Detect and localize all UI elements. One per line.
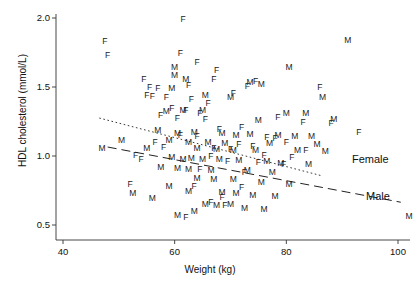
data-point-f-0: F [102, 37, 107, 46]
data-point-m-35: M [143, 143, 150, 152]
data-point-m-64: M [185, 187, 192, 196]
data-point-f-13: F [317, 83, 322, 92]
data-point-m-11: M [163, 107, 170, 116]
data-point-m-46: M [216, 155, 223, 164]
data-point-m-68: M [272, 192, 279, 201]
data-point-m-71: M [213, 201, 220, 210]
data-point-f-60: F [183, 212, 188, 221]
data-point-m-1: M [171, 71, 178, 80]
x-tick-label-0: 40 [43, 246, 83, 257]
series-label-male: Male [366, 190, 390, 202]
data-point-m-60: M [230, 175, 237, 184]
data-point-f-7: F [194, 58, 199, 67]
data-point-f-8: F [214, 66, 219, 75]
data-point-f-17: F [164, 92, 169, 101]
data-point-m-20: M [191, 128, 198, 137]
x-tick-label-2: 80 [266, 246, 306, 257]
data-point-f-55: F [192, 182, 197, 191]
data-point-m-38: M [230, 146, 237, 155]
data-point-m-21: M [219, 129, 226, 138]
data-point-f-38: F [236, 140, 241, 149]
data-point-f-49: F [225, 157, 230, 166]
data-point-m-33: M [313, 139, 320, 148]
data-point-m-72: M [227, 199, 234, 208]
data-point-m-77: M [174, 210, 181, 219]
data-point-m-65: M [219, 188, 226, 197]
data-point-m-40: M [294, 146, 301, 155]
data-point-f-50: F [256, 158, 261, 167]
data-point-m-8: M [202, 91, 209, 100]
data-point-m-37: M [213, 145, 220, 154]
data-point-f-29: F [239, 123, 244, 132]
data-point-m-6: M [286, 63, 293, 72]
data-point-m-74: M [260, 205, 267, 214]
data-point-m-52: M [174, 163, 181, 172]
data-point-m-66: M [233, 188, 240, 197]
data-point-m-14: M [283, 109, 290, 118]
data-point-m-9: M [227, 92, 234, 101]
data-point-m-70: M [202, 199, 209, 208]
data-point-f-24: F [175, 114, 180, 123]
data-point-m-32: M [266, 139, 273, 148]
data-point-f-56: F [239, 183, 244, 192]
data-point-m-29: M [185, 137, 192, 146]
y-axis-title: HDL cholesterol (mmol/L) [17, 51, 28, 171]
x-tick-label-3: 100 [378, 246, 418, 257]
data-point-m-2: M [168, 84, 175, 93]
data-point-f-37: F [153, 138, 158, 147]
data-point-m-27: M [118, 136, 125, 145]
data-point-m-36: M [193, 144, 200, 153]
series-label-female: Female [352, 153, 389, 165]
data-point-f-44: F [133, 150, 138, 159]
data-point-m-59: M [210, 175, 217, 184]
data-point-m-49: M [277, 159, 284, 168]
data-point-m-7: M [344, 36, 351, 45]
data-point-f-4: F [155, 83, 160, 92]
data-point-m-45: M [199, 155, 206, 164]
data-point-m-34: M [99, 143, 106, 152]
data-point-f-36: F [284, 138, 289, 147]
data-point-m-42: M [168, 153, 175, 162]
data-point-m-51: M [157, 163, 164, 172]
data-point-m-55: M [244, 166, 251, 175]
data-point-m-25: M [291, 132, 298, 141]
data-point-m-19: M [174, 128, 181, 137]
data-point-m-54: M [207, 166, 214, 175]
data-point-m-12: M [179, 106, 186, 115]
data-point-m-4: M [246, 78, 253, 87]
data-point-m-75: M [406, 212, 413, 221]
data-point-m-17: M [330, 115, 337, 124]
data-point-m-73: M [241, 204, 248, 213]
data-point-f-1: F [105, 50, 110, 59]
data-point-m-63: M [166, 182, 173, 191]
x-tick-label-1: 60 [155, 246, 195, 257]
data-point-m-62: M [286, 179, 293, 188]
data-point-m-57: M [129, 188, 136, 197]
data-point-m-31: M [221, 139, 228, 148]
data-point-f-31: F [356, 128, 361, 137]
data-point-m-67: M [249, 190, 256, 199]
data-point-m-24: M [274, 130, 281, 139]
data-point-m-61: M [258, 177, 265, 186]
data-point-f-27: F [300, 118, 305, 127]
data-point-m-30: M [205, 138, 212, 147]
data-point-m-10: M [319, 92, 326, 101]
data-point-m-76: M [191, 207, 198, 216]
data-point-m-48: M [263, 157, 270, 166]
data-point-m-22: M [233, 130, 240, 139]
data-point-m-3: M [182, 74, 189, 83]
data-point-m-5: M [258, 80, 265, 89]
data-point-f-5: F [180, 15, 185, 24]
y-tick-label-3: 2.0 [20, 12, 50, 23]
data-point-m-44: M [188, 154, 195, 163]
data-point-f-2: F [141, 74, 146, 83]
data-point-f-20: F [169, 104, 174, 113]
data-point-m-53: M [185, 165, 192, 174]
data-point-m-69: M [149, 194, 156, 203]
data-point-f-6: F [178, 49, 183, 58]
y-tick-label-0: 0.5 [20, 219, 50, 230]
data-point-m-47: M [235, 156, 242, 165]
data-point-f-9: F [211, 75, 216, 84]
data-point-m-18: M [154, 126, 161, 135]
data-point-m-28: M [166, 136, 173, 145]
